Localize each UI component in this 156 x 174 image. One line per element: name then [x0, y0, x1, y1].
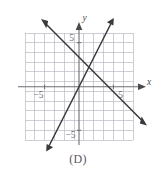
- descending-line-arrowhead-start: [41, 19, 48, 28]
- axis-lines: [18, 22, 146, 145]
- y-axis-arrowhead: [76, 22, 83, 30]
- y-axis-label: y: [82, 13, 88, 23]
- coordinate-plane-graph: −5 5 5 −5 x y: [0, 0, 156, 174]
- y-tick-label-negative-five: −5: [65, 130, 75, 140]
- figure-caption: (D): [0, 152, 156, 167]
- figure-container: −5 5 5 −5 x y (D): [0, 0, 156, 174]
- x-tick-label-negative-five: −5: [33, 90, 43, 100]
- x-axis-label: x: [146, 77, 152, 87]
- y-tick-label-positive-five: 5: [69, 33, 74, 43]
- x-axis-arrowhead: [138, 83, 146, 90]
- descending-line-arrowhead-end: [140, 116, 147, 125]
